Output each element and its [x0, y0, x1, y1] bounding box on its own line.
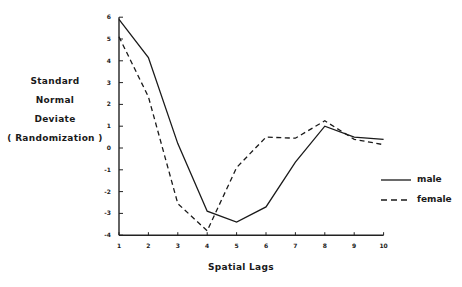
x-axis-label: Spatial Lags	[208, 262, 274, 272]
x-tick-label: 10	[379, 242, 387, 249]
x-tick-label: 2	[146, 242, 150, 249]
axis-ticks: 6543210-1-2-3-412345678910	[104, 13, 387, 249]
y-tick-label: 0	[107, 144, 111, 151]
y-axis-label-line-4: ( Randomization )	[0, 133, 110, 143]
legend-label-male: male	[417, 174, 442, 184]
x-tick-label: 8	[323, 242, 327, 249]
y-tick-label: -4	[104, 231, 111, 238]
legend-label-female: female	[417, 194, 452, 204]
y-axis-label-line-1: Standard	[0, 76, 110, 86]
x-tick-label: 7	[293, 242, 297, 249]
y-tick-label: 6	[107, 13, 111, 20]
y-tick-label: -1	[104, 166, 111, 173]
series-line-male	[119, 19, 384, 222]
data-lines	[119, 19, 384, 230]
y-axis-label-line-2: Normal	[0, 95, 110, 105]
x-tick-label: 9	[352, 242, 356, 249]
legend-swatches	[381, 180, 411, 200]
x-tick-label: 5	[235, 242, 239, 249]
line-chart: 6543210-1-2-3-412345678910	[0, 0, 462, 287]
x-tick-label: 4	[205, 242, 209, 249]
y-tick-label: -2	[104, 188, 111, 195]
y-axis-label-line-3: Deviate	[0, 114, 110, 124]
x-tick-label: 3	[176, 242, 180, 249]
x-tick-label: 6	[264, 242, 268, 249]
y-tick-label: -3	[104, 209, 111, 216]
y-tick-label: 4	[107, 57, 111, 64]
axes	[119, 17, 384, 235]
y-tick-label: 5	[107, 35, 111, 42]
x-tick-label: 1	[117, 242, 121, 249]
